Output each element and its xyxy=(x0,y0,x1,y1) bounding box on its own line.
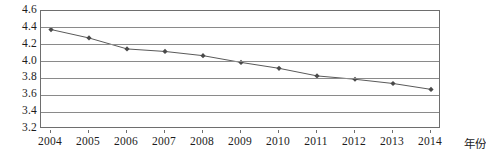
plot-area xyxy=(40,10,440,128)
gridline xyxy=(41,78,439,79)
x-tick-mark xyxy=(240,130,241,133)
x-tick-label: 2011 xyxy=(304,135,327,147)
x-tick-mark xyxy=(316,130,317,133)
x-tick-mark xyxy=(430,130,431,133)
x-tick-label: 2008 xyxy=(190,135,214,147)
y-tick-label: 3.8 xyxy=(3,71,37,82)
x-tick-mark xyxy=(164,130,165,133)
x-tick-mark xyxy=(392,130,393,133)
y-tick-label: 4.2 xyxy=(3,38,37,49)
x-tick-label: 2012 xyxy=(342,135,366,147)
y-tick-label: 3.6 xyxy=(3,88,37,99)
data-point-marker xyxy=(86,35,91,40)
x-tick-label: 2005 xyxy=(76,135,100,147)
x-tick-mark xyxy=(354,130,355,133)
x-tick-mark xyxy=(278,130,279,133)
x-tick-label: 2010 xyxy=(266,135,290,147)
x-tick-label: 2007 xyxy=(152,135,176,147)
x-tick-label: 2006 xyxy=(114,135,138,147)
x-tick-mark xyxy=(50,130,51,133)
y-tick-label: 3.2 xyxy=(3,122,37,133)
y-axis: 4.64.44.24.03.83.63.43.2 xyxy=(0,10,37,128)
data-point-marker xyxy=(390,81,395,86)
x-tick-mark xyxy=(126,130,127,133)
gridline xyxy=(41,27,439,28)
gridline xyxy=(41,61,439,62)
y-tick-label: 3.4 xyxy=(3,105,37,116)
x-tick-label: 2009 xyxy=(228,135,252,147)
x-tick-mark xyxy=(88,130,89,133)
y-tick-label: 4.6 xyxy=(3,4,37,15)
x-tick-label: 2004 xyxy=(38,135,62,147)
gridline xyxy=(41,44,439,45)
data-point-marker xyxy=(124,46,129,51)
data-point-marker xyxy=(276,66,281,71)
x-axis-title: 年份 xyxy=(464,135,486,151)
y-tick-label: 4.0 xyxy=(3,55,37,66)
data-point-marker xyxy=(428,87,433,92)
data-point-marker xyxy=(200,53,205,58)
y-tick-label: 4.4 xyxy=(3,21,37,32)
gridline xyxy=(41,95,439,96)
data-point-marker xyxy=(162,49,167,54)
x-axis: 年份 2004200520062007200820092010201120122… xyxy=(40,130,440,152)
x-tick-label: 2013 xyxy=(380,135,404,147)
series-line xyxy=(51,30,431,90)
gridline xyxy=(41,112,439,113)
x-tick-mark xyxy=(202,130,203,133)
x-tick-label: 2014 xyxy=(418,135,442,147)
